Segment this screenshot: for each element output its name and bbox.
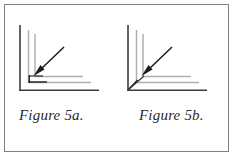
figure-cell-b: Figure 5b. <box>113 5 225 153</box>
inner-offset-lines <box>28 30 91 83</box>
figure-5b-caption: Figure 5b. <box>113 107 243 124</box>
figure-panel: Figure 5a. <box>4 4 229 152</box>
figure-5b-drawing <box>121 21 221 99</box>
annotation-arrow-icon <box>142 47 173 76</box>
inner-offset-lines <box>136 30 199 83</box>
outer-profile-lines <box>127 25 207 91</box>
annotation-arrow-icon <box>34 47 65 76</box>
figure-cell-a: Figure 5a. <box>5 5 117 153</box>
figure-5a-drawing <box>13 21 113 99</box>
outer-profile-lines <box>19 25 99 91</box>
